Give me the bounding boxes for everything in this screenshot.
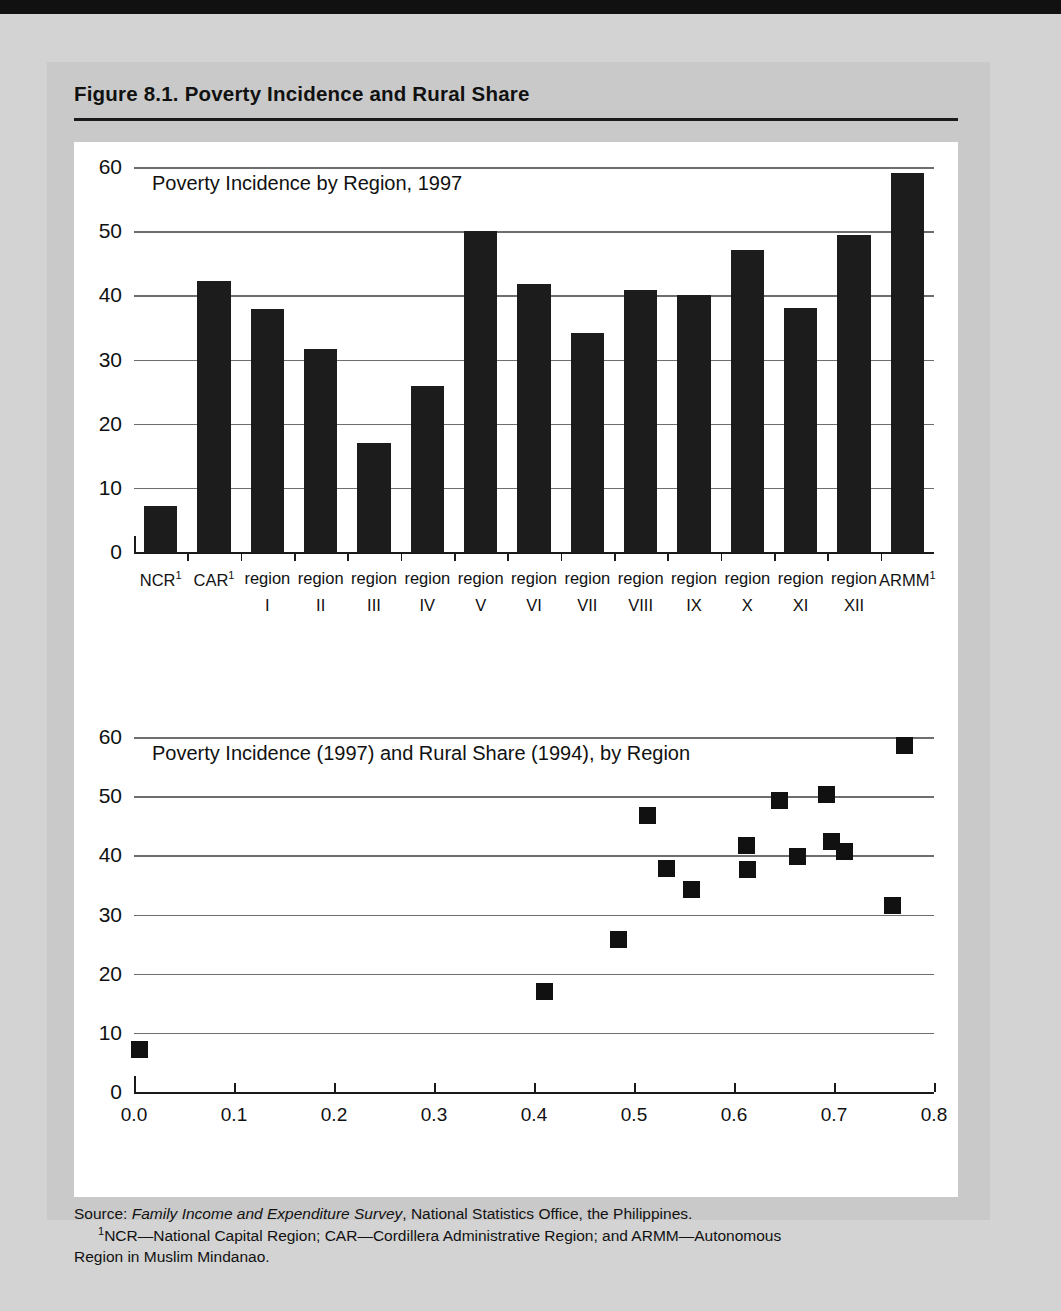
bar-category-label: NCR1: [140, 569, 182, 590]
bar-category-label: region: [618, 569, 664, 588]
x-axis-tick: [187, 552, 189, 561]
bar: [731, 250, 764, 552]
y-axis-label: 50: [99, 784, 122, 808]
x-axis-tick: [834, 1083, 836, 1092]
x-axis-tick-label: 0.1: [221, 1104, 247, 1126]
source-title: Family Income and Expenditure Survey: [132, 1205, 403, 1222]
source-rest: , National Statistics Office, the Philip…: [402, 1205, 692, 1222]
x-axis-line: [134, 1092, 934, 1094]
abbreviation-note: 1NCR—National Capital Region; CAR—Cordil…: [74, 1224, 958, 1247]
bar-category-label: region: [404, 569, 450, 588]
scatter-point: [739, 861, 756, 878]
x-axis-tick-label: 0.3: [421, 1104, 447, 1126]
bar-category-label: region: [298, 569, 344, 588]
x-axis-tick: [434, 1083, 436, 1092]
x-axis-tick: [241, 552, 243, 561]
x-axis-tick: [334, 1083, 336, 1092]
x-axis-tick: [827, 552, 829, 561]
bar-category-label: region: [244, 569, 290, 588]
gridline: [134, 855, 934, 857]
abbreviation-note-line1: NCR—National Capital Region; CAR—Cordill…: [104, 1228, 781, 1245]
gridline: [134, 737, 934, 739]
bar-plot-area: 1020304050600NCR1CAR1regionIregionIIregi…: [134, 167, 934, 552]
bar-category-sublabel: II: [316, 596, 325, 615]
y-axis-label: 10: [99, 476, 122, 500]
y-axis-label: 0: [110, 1080, 122, 1104]
y-axis-stub: [134, 536, 136, 552]
x-axis-tick: [401, 552, 403, 561]
x-axis-tick: [561, 552, 563, 561]
gridline: [134, 974, 934, 976]
bar: [464, 231, 497, 552]
bar: [624, 290, 657, 552]
x-axis-tick: [534, 1083, 536, 1092]
x-axis-tick: [234, 1083, 236, 1092]
x-axis-tick: [667, 552, 669, 561]
bar: [251, 309, 284, 552]
x-axis-tick: [614, 552, 616, 561]
gridline: [134, 231, 934, 233]
bar-category-label: region: [724, 569, 770, 588]
y-axis-label: 20: [99, 962, 122, 986]
x-axis-tick: [454, 552, 456, 561]
scatter-point: [536, 983, 553, 1000]
bar-category-label: region: [831, 569, 877, 588]
x-axis-tick: [507, 552, 509, 561]
scatter-point: [658, 860, 675, 877]
bar-category-label: region: [511, 569, 557, 588]
scatter-point: [818, 786, 835, 803]
x-axis-tick: [734, 1083, 736, 1092]
bar: [784, 308, 817, 552]
bar: [517, 284, 550, 552]
bar-category-sublabel: IX: [686, 596, 702, 615]
scatter-point: [896, 737, 913, 754]
bar-category-label: region: [351, 569, 397, 588]
title-divider: [74, 118, 958, 121]
scatter-chart: Poverty Incidence (1997) and Rural Share…: [74, 702, 958, 1197]
bar-category-sublabel: VI: [526, 596, 542, 615]
scatter-point: [836, 843, 853, 860]
x-axis-tick: [721, 552, 723, 561]
bar-category-label: region: [778, 569, 824, 588]
y-axis-label: 0: [110, 540, 122, 564]
bar-category-sublabel: VIII: [628, 596, 653, 615]
bar: [357, 443, 390, 552]
figure-title: Figure 8.1. Poverty Incidence and Rural …: [74, 82, 954, 106]
scatter-point: [789, 848, 806, 865]
x-axis-tick-label: 0.7: [821, 1104, 847, 1126]
y-axis-label: 10: [99, 1021, 122, 1045]
figure-frame: Figure 8.1. Poverty Incidence and Rural …: [47, 62, 990, 1220]
bar: [304, 349, 337, 552]
bar-category-sublabel: VII: [577, 596, 597, 615]
bar: [571, 333, 604, 552]
bar-category-label: region: [458, 569, 504, 588]
source-label: Source:: [74, 1205, 127, 1222]
gridline: [134, 1033, 934, 1035]
bar-category-sublabel: X: [742, 596, 753, 615]
x-axis-tick-label: 0.6: [721, 1104, 747, 1126]
y-axis-label: 20: [99, 412, 122, 436]
x-axis-tick: [347, 552, 349, 561]
bar-category-sublabel: III: [367, 596, 381, 615]
bar: [891, 173, 924, 552]
scatter-point: [683, 881, 700, 898]
x-axis-tick-label: 0.2: [321, 1104, 347, 1126]
scatter-point: [639, 807, 656, 824]
scatter-point: [610, 931, 627, 948]
x-axis-line: [134, 552, 934, 554]
x-axis-tick-label: 0.8: [921, 1104, 947, 1126]
bar-category-sublabel: IV: [420, 596, 436, 615]
figure-footnotes: Source: Family Income and Expenditure Su…: [74, 1204, 958, 1268]
x-axis-tick: [634, 1083, 636, 1092]
gridline: [134, 796, 934, 798]
y-axis-label: 50: [99, 219, 122, 243]
page-top-black-bar: [0, 0, 1061, 14]
gridline: [134, 167, 934, 169]
scatter-point: [131, 1041, 148, 1058]
scatter-point: [884, 897, 901, 914]
x-axis-tick: [881, 552, 883, 561]
source-note: Source: Family Income and Expenditure Su…: [74, 1204, 958, 1224]
bar-category-sublabel: I: [265, 596, 270, 615]
y-axis-label: 60: [99, 725, 122, 749]
bar: [144, 506, 177, 552]
